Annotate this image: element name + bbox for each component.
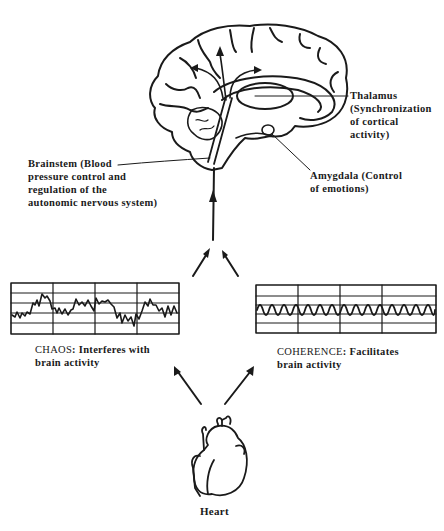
coherence-caption: COHERENCE: Facilitates brain activity <box>277 345 399 371</box>
coherence-desc: : Facilitates <box>343 346 399 357</box>
label-line: of emotions) <box>310 182 402 195</box>
chaos-desc: : Interferes with <box>72 344 150 355</box>
chaos-desc-2: brain activity <box>35 356 150 369</box>
label-line: Brainstem (Blood <box>28 157 157 170</box>
label-line: autonomic nervous system) <box>28 196 157 209</box>
label-line: Amygdala (Control <box>310 169 402 182</box>
heart-illustration <box>192 416 247 496</box>
label-line: of cortical <box>350 115 432 128</box>
chaos-caption: CHAOS: Interferes with brain activity <box>35 343 150 369</box>
chaos-title: CHAOS <box>35 344 72 355</box>
label-line: pressure control and <box>28 170 157 183</box>
amygdala-label: Amygdala (Control of emotions) <box>310 169 402 195</box>
brain-illustration <box>150 24 347 170</box>
diagram-canvas <box>0 0 444 531</box>
chaos-waveform-chart <box>11 283 179 334</box>
label-line: regulation of the <box>28 183 157 196</box>
thalamus-label: Thalamus (Synchronization of cortical ac… <box>350 89 432 141</box>
label-line: Thalamus <box>350 89 432 102</box>
heart-label: Heart <box>200 505 229 518</box>
brainstem-label: Brainstem (Blood pressure control and re… <box>28 157 157 209</box>
coherence-title: COHERENCE <box>277 346 343 357</box>
coherence-waveform-chart <box>256 285 436 333</box>
coherence-desc-2: brain activity <box>277 358 399 371</box>
label-line: activity) <box>350 128 432 141</box>
arrow-up-to-brain <box>213 168 214 240</box>
label-line: (Synchronization <box>350 102 432 115</box>
